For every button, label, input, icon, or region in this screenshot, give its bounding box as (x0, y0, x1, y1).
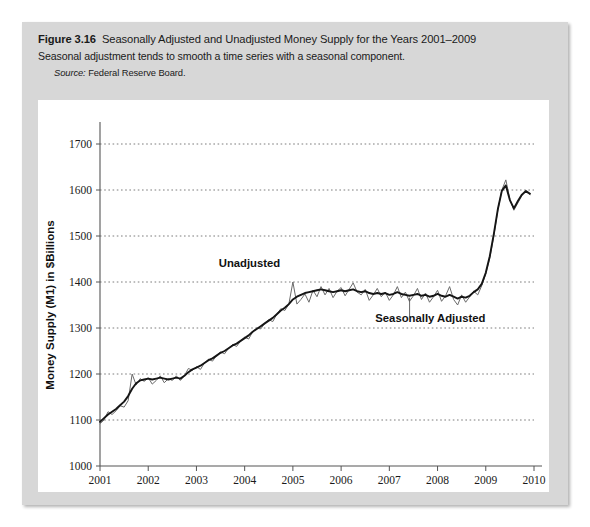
money-supply-line-chart: 10001100120013001400150016001700 2001200… (38, 100, 549, 492)
y-tick-label: 1100 (69, 414, 92, 426)
series-annotations-group: UnadjustedSeasonally Adjusted (219, 257, 486, 324)
y-tick-label: 1300 (69, 322, 92, 334)
x-tick-label: 2004 (233, 474, 256, 486)
y-tick-label: 1200 (69, 368, 92, 380)
series-annotation-adjusted: Seasonally Adjusted (375, 312, 485, 324)
x-tick-label: 2010 (523, 474, 546, 486)
x-tick-label: 2008 (426, 474, 449, 486)
x-tick-label: 2006 (330, 474, 353, 486)
y-axis-ticks-group: 10001100120013001400150016001700 (69, 138, 100, 472)
y-axis-title: Money Supply (M1) in $Billions (44, 220, 56, 389)
figure-title: Figure 3.16 Seasonally Adjusted and Unad… (38, 33, 548, 45)
x-tick-label: 2002 (137, 474, 160, 486)
x-tick-label: 2009 (474, 474, 497, 486)
y-tick-label: 1500 (69, 230, 92, 242)
figure-subtitle: Seasonal adjustment tends to smooth a ti… (38, 50, 548, 62)
x-tick-label: 2003 (185, 474, 208, 486)
figure-source: Source: Federal Reserve Board. (54, 67, 548, 78)
figure-number-label: Figure 3.16 (38, 33, 96, 45)
source-label: Source: (54, 67, 86, 78)
series-annotation-unadjusted: Unadjusted (219, 257, 281, 269)
y-tick-label: 1600 (69, 184, 92, 196)
x-tick-label: 2001 (89, 474, 112, 486)
y-tick-label: 1400 (69, 276, 92, 288)
y-tick-label: 1000 (69, 460, 92, 472)
series-line-seasonally-adjusted (100, 185, 530, 421)
source-text: Federal Reserve Board. (88, 67, 185, 78)
x-axis-ticks-group: 2001200220032004200520062007200820092010 (89, 466, 546, 486)
x-tick-label: 2007 (378, 474, 401, 486)
figure-container: Figure 3.16 Seasonally Adjusted and Unad… (22, 22, 568, 505)
x-tick-label: 2005 (281, 474, 304, 486)
chart-panel: 10001100120013001400150016001700 2001200… (38, 100, 549, 492)
y-tick-label: 1700 (69, 138, 92, 150)
figure-caption-block: Figure 3.16 Seasonally Adjusted and Unad… (38, 33, 548, 78)
series-line-unadjusted (100, 180, 530, 424)
figure-title-text: Seasonally Adjusted and Unadjusted Money… (102, 33, 476, 45)
